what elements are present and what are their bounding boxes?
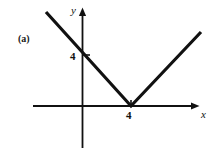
x-axis-label: x — [201, 109, 206, 120]
figure-panel: (a) y x 4 4 — [0, 0, 212, 156]
y-axis-tick-label-4: 4 — [70, 51, 76, 62]
x-axis-arrowhead — [191, 102, 200, 109]
x-axis-tick-label-4: 4 — [126, 110, 132, 121]
y-axis-label: y — [71, 5, 76, 16]
y-axis-arrowhead — [79, 8, 86, 17]
panel-label: (a) — [18, 34, 30, 44]
plot-canvas — [0, 0, 212, 156]
